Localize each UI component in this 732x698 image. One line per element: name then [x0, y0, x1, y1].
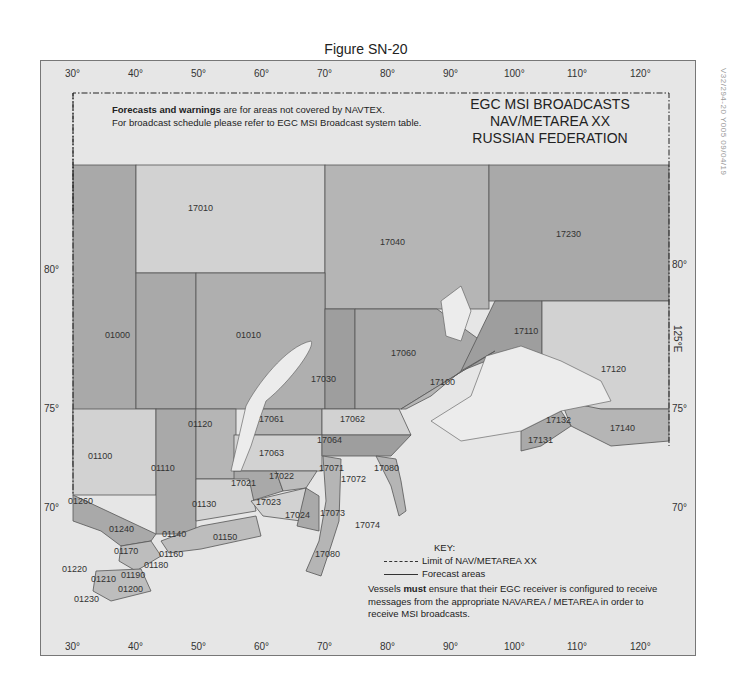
zone-label-01220[interactable]: 01220 [62, 564, 87, 574]
top-tick-30: 30° [65, 68, 80, 79]
zone-label-01160[interactable]: 01160 [159, 549, 183, 559]
zone-label-17023[interactable]: 17023 [256, 497, 281, 507]
header-notes: Forecasts and warnings are for areas not… [112, 103, 421, 129]
zone-label-17074[interactable]: 17074 [355, 520, 380, 530]
zone-label-17100[interactable]: 17100 [430, 377, 455, 387]
bottom-tick-70: 70° [317, 641, 332, 652]
zone-label-17030[interactable]: 17030 [311, 374, 336, 384]
solid-line-icon [384, 574, 418, 575]
zone-17030 [325, 309, 355, 409]
bottom-tick-100: 100° [504, 641, 525, 652]
top-tick-60: 60° [254, 68, 269, 79]
top-tick-80: 80° [380, 68, 395, 79]
bottom-tick-40: 40° [128, 641, 143, 652]
zone-label-01010[interactable]: 01010 [236, 330, 261, 340]
zone-label-01200[interactable]: 01200 [118, 584, 143, 594]
map-canvas[interactable] [40, 60, 696, 656]
zone-17040 [325, 165, 489, 309]
map-title: EGC MSI BROADCASTS NAV/METAREA XX RUSSIA… [440, 96, 660, 147]
bottom-tick-30: 30° [65, 641, 80, 652]
map-zones [41, 61, 696, 656]
zone-label-17040[interactable]: 17040 [380, 237, 405, 247]
dash-dot-line-icon [384, 561, 418, 562]
zone-label-17071[interactable]: 17071 [319, 463, 344, 473]
bottom-tick-50: 50° [191, 641, 206, 652]
zone-label-17022[interactable]: 17022 [269, 471, 294, 481]
vessels-note: Vessels must ensure that their EGC recei… [368, 583, 658, 621]
zone-label-01230[interactable]: 01230 [74, 594, 99, 604]
right-tick-70: 70° [672, 502, 687, 513]
bottom-tick-90: 90° [443, 641, 458, 652]
bottom-tick-60: 60° [254, 641, 269, 652]
zone-label-17080[interactable]: 17080 [374, 463, 399, 473]
zone-label-01000[interactable]: 01000 [105, 330, 130, 340]
zone-label-01260[interactable]: 01260 [68, 496, 93, 506]
zone-label-17024[interactable]: 17024 [285, 510, 310, 520]
figure-title: Figure SN-20 [0, 41, 732, 57]
zone-label-17132[interactable]: 17132 [546, 415, 571, 425]
zone-label-17073[interactable]: 17073 [320, 508, 345, 518]
zone-label-17021[interactable]: 17021 [231, 478, 256, 488]
top-tick-90: 90° [443, 68, 458, 79]
right-tick-80: 80° [672, 259, 687, 270]
left-tick-80: 80° [44, 264, 59, 275]
bottom-tick-120: 120° [630, 641, 651, 652]
zone-label-17131[interactable]: 17131 [528, 435, 553, 445]
right-tick-75: 75° [672, 403, 687, 414]
top-tick-110: 110° [567, 68, 587, 79]
top-tick-40: 40° [128, 68, 143, 79]
zone-label-01140[interactable]: 01140 [162, 529, 186, 539]
bottom-tick-80: 80° [380, 641, 395, 652]
zone-label-17060[interactable]: 17060 [391, 348, 416, 358]
key-heading: KEY: [434, 542, 455, 555]
zone-01100 [73, 409, 156, 495]
map-title-line3: RUSSIAN FEDERATION [440, 130, 660, 147]
zone-label-01190[interactable]: 01190 [121, 570, 145, 580]
figure-code: V32/294-20 Y005 09/04/19 [719, 68, 728, 176]
top-tick-50: 50° [191, 68, 206, 79]
zone-label-17080[interactable]: 17080 [315, 549, 340, 559]
zone-label-01110[interactable]: 01110 [151, 463, 175, 473]
bottom-tick-110: 110° [567, 641, 587, 652]
zone-label-17064[interactable]: 17064 [317, 435, 342, 445]
notes-line1: are for areas not covered by NAVTEX. [221, 104, 385, 115]
left-tick-75: 75° [44, 403, 59, 414]
key-limit-label: Limit of NAV/METAREA XX [422, 555, 537, 566]
zone-label-01100[interactable]: 01100 [88, 451, 112, 461]
zone-label-01240[interactable]: 01240 [109, 524, 134, 534]
zone-01000 [136, 273, 196, 409]
zone-label-17062[interactable]: 17062 [340, 414, 365, 424]
zone-17062 [322, 409, 411, 435]
zone-label-17072[interactable]: 17072 [341, 474, 366, 484]
right-meridian-label: 125°E [672, 325, 683, 352]
top-tick-120: 120° [630, 68, 651, 79]
zone-label-17010[interactable]: 17010 [188, 203, 213, 213]
zone-label-17120[interactable]: 17120 [601, 364, 626, 374]
zone-label-17140[interactable]: 17140 [610, 423, 635, 433]
map-title-line2: NAV/METAREA XX [440, 113, 660, 130]
zone-label-01130[interactable]: 01130 [192, 499, 216, 509]
notes-line2: For broadcast schedule please refer to E… [112, 116, 421, 129]
zone-label-17063[interactable]: 17063 [259, 448, 284, 458]
zone-label-17110[interactable]: 17110 [514, 326, 538, 336]
zone-label-01210[interactable]: 01210 [91, 574, 116, 584]
top-tick-70: 70° [317, 68, 332, 79]
top-tick-100: 100° [504, 68, 525, 79]
zone-label-17061[interactable]: 17061 [259, 414, 284, 424]
zone-label-17230[interactable]: 17230 [556, 229, 581, 239]
notes-bold: Forecasts and warnings [112, 104, 221, 115]
zone-label-01180[interactable]: 01180 [144, 560, 168, 570]
zone-label-01120[interactable]: 01120 [188, 419, 212, 429]
left-tick-70: 70° [44, 502, 59, 513]
zone-label-01150[interactable]: 01150 [213, 532, 237, 542]
key-forecast-label: Forecast areas [422, 568, 485, 579]
map-title-line1: EGC MSI BROADCASTS [440, 96, 660, 113]
zone-label-01170[interactable]: 01170 [114, 546, 138, 556]
vessels-must: must [403, 583, 426, 594]
zone-17010 [136, 165, 325, 273]
